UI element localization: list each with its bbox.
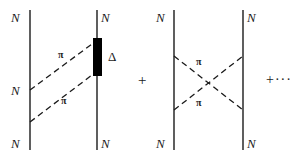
diagram-canvas xyxy=(0,0,307,159)
left-diagram-label-N-bottom-left: N xyxy=(11,137,20,150)
left-diagram-pion-line-upper xyxy=(30,41,96,90)
right-diagram-label-N-top-right: N xyxy=(247,11,256,24)
right-diagram-label-N-top-left: N xyxy=(156,11,165,24)
operator-plus-ellipsis-right: +··· xyxy=(266,73,292,87)
left-diagram-label-N-middle-left: N xyxy=(11,84,20,97)
feynman-diagram-figure: N N N N N π π Δ + N N N N π π +··· xyxy=(0,0,307,159)
delta-isobar-blob xyxy=(93,38,102,76)
delta-isobar-label: Δ xyxy=(108,50,116,63)
right-diagram-label-N-bottom-right: N xyxy=(247,137,256,150)
right-diagram-label-pion-upper: π xyxy=(196,57,201,67)
left-diagram-label-N-top-left: N xyxy=(11,11,20,24)
operator-plus-middle: + xyxy=(138,73,146,88)
left-diagram-label-pion-upper: π xyxy=(58,50,63,60)
left-diagram-label-pion-lower: π xyxy=(61,96,66,106)
left-diagram-label-N-bottom-right: N xyxy=(101,137,110,150)
right-diagram-label-pion-lower: π xyxy=(196,98,201,108)
right-diagram-label-N-bottom-left: N xyxy=(156,137,165,150)
left-diagram-label-N-top-right: N xyxy=(101,11,110,24)
